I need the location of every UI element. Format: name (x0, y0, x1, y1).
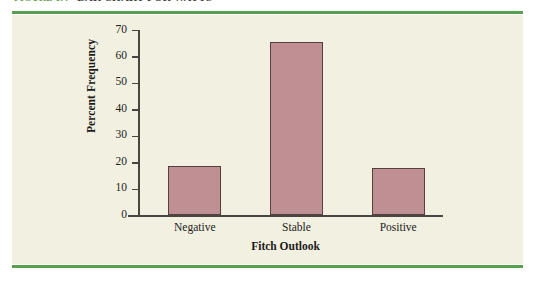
y-axis-line (138, 30, 140, 216)
x-tick-label: Stable (246, 221, 348, 233)
y-tick: 40 (132, 109, 138, 110)
y-tick: 70 (132, 30, 138, 31)
x-axis-line (128, 215, 443, 217)
plot-area: Percent Frequency 010203040506070 Negati… (80, 30, 455, 235)
y-tick: 0 (132, 215, 138, 216)
y-tick: 60 (132, 56, 138, 57)
bar (372, 168, 425, 215)
y-tick-label: 40 (116, 102, 128, 114)
x-tick-label: Positive (347, 221, 449, 233)
x-tick-label: Negative (144, 221, 246, 233)
y-tick-label: 20 (116, 155, 128, 167)
y-tick-label: 50 (116, 75, 128, 87)
y-tick-label: 10 (116, 181, 128, 193)
y-axis-title: Percent Frequency (85, 11, 97, 161)
y-tick-label: 0 (121, 208, 127, 220)
figure-container: FIGURE 1.4BAR CHART FOR WATTS Percent Fr… (0, 0, 533, 281)
y-tick-label: 70 (116, 23, 128, 35)
y-tick: 50 (132, 83, 138, 84)
figure-title: BAR CHART FOR WATTS (77, 0, 212, 3)
y-tick-label: 30 (116, 128, 128, 140)
figure-caption: FIGURE 1.4BAR CHART FOR WATTS (14, 0, 212, 5)
bar (270, 42, 323, 215)
y-tick: 20 (132, 162, 138, 163)
x-axis-title: Fitch Outlook (128, 240, 443, 252)
bottom-rule (12, 265, 523, 268)
y-tick: 30 (132, 136, 138, 137)
y-tick: 10 (132, 189, 138, 190)
y-tick-label: 60 (116, 49, 128, 61)
bar (168, 166, 221, 215)
figure-number: FIGURE 1.4 (14, 0, 68, 3)
